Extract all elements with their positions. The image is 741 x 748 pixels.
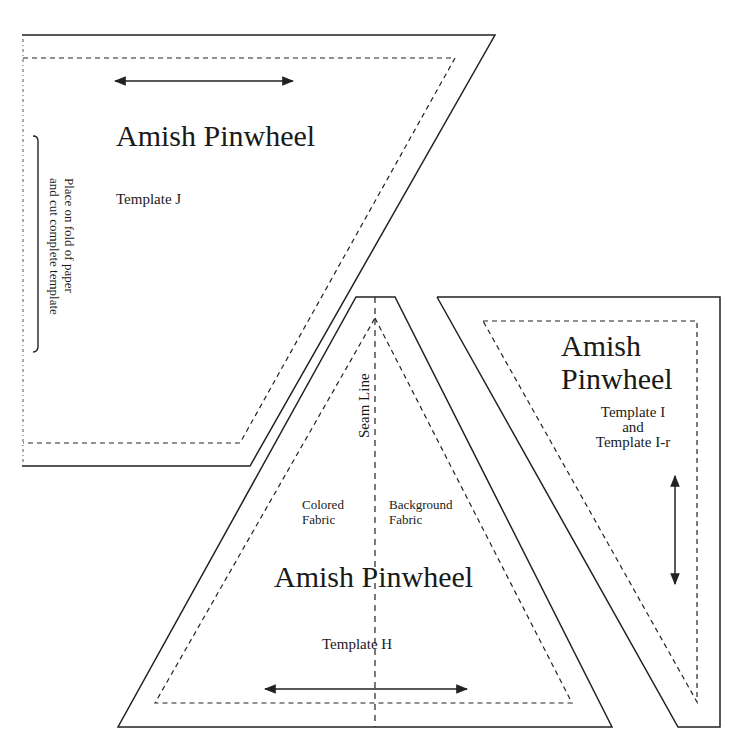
fold-bracket-icon <box>33 136 38 352</box>
background-fabric-label: Background Fabric <box>389 498 453 528</box>
template-j-seam-line <box>23 58 455 443</box>
template-h-shape <box>118 297 612 727</box>
template-j-cut-line <box>22 35 495 466</box>
seam-line-label: Seam Line <box>357 373 372 438</box>
template-i-subtitle-line3: Template I-r <box>583 435 683 450</box>
colored-fabric-line1: Colored <box>302 498 344 513</box>
template-j-subtitle: Template J <box>116 192 181 207</box>
template-i-subtitle-line2: and <box>583 420 683 435</box>
template-j-title: Amish Pinwheel <box>116 121 315 151</box>
template-i-title-line1: Amish <box>561 331 641 361</box>
colored-fabric-label: Colored Fabric <box>302 498 344 528</box>
template-j-shape <box>22 35 495 466</box>
template-h-cut-line <box>118 297 612 727</box>
template-i-subtitle-line1: Template I <box>583 405 683 420</box>
fold-note-line2: and cut complete template <box>46 178 61 315</box>
fold-note: Place on fold of paper and cut complete … <box>46 178 76 315</box>
template-i-title-line2: Pinwheel <box>561 364 673 394</box>
fold-note-line1: Place on fold of paper <box>61 178 76 315</box>
background-fabric-line1: Background <box>389 498 453 513</box>
template-h-title: Amish Pinwheel <box>274 562 473 592</box>
background-fabric-line2: Fabric <box>389 513 453 528</box>
colored-fabric-line2: Fabric <box>302 513 344 528</box>
template-i-subtitle: Template I and Template I-r <box>583 405 683 450</box>
template-h-subtitle: Template H <box>322 637 392 652</box>
